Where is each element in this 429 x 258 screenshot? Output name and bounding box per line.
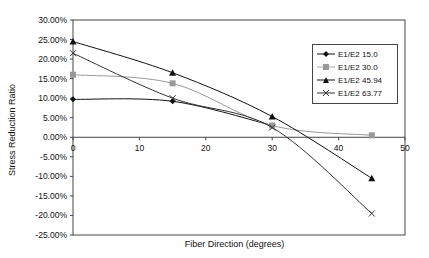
x-tick-label: 40 bbox=[334, 143, 344, 153]
line-chart: 30.00%25.00%20.00%15.00%10.00%5.00%0.00%… bbox=[0, 0, 429, 258]
square-marker-icon bbox=[170, 80, 176, 86]
y-tick-label: -20.00% bbox=[35, 210, 67, 220]
legend-item-15: E1/E2 15.0 bbox=[317, 48, 378, 60]
legend-label: E1/E2 15.0 bbox=[338, 50, 378, 59]
triangle-marker-icon bbox=[70, 38, 77, 45]
square-marker-icon bbox=[317, 63, 335, 71]
legend-label: E1/E2 30.0 bbox=[338, 63, 378, 72]
triangle-marker-icon bbox=[368, 175, 375, 182]
triangle-marker-icon bbox=[317, 76, 335, 84]
diamond-marker-icon bbox=[317, 50, 335, 58]
triangle-marker-icon bbox=[169, 69, 176, 76]
x-tick-label: 0 bbox=[71, 143, 76, 153]
x-tick-label: 20 bbox=[201, 143, 211, 153]
y-tick-label: -10.00% bbox=[35, 171, 67, 181]
x-tick-label: 50 bbox=[400, 143, 410, 153]
y-tick-label: 25.00% bbox=[38, 35, 67, 45]
legend-label: E1/E2 63.77 bbox=[338, 89, 382, 98]
y-tick-label: -15.00% bbox=[35, 191, 67, 201]
legend-item-30: E1/E2 30.0 bbox=[317, 61, 378, 73]
y-tick-label: 20.00% bbox=[38, 54, 67, 64]
x-axis-title: Fiber Direction (degrees) bbox=[0, 239, 429, 249]
y-tick-label: 15.00% bbox=[38, 74, 67, 84]
legend-item-63: E1/E2 63.77 bbox=[317, 87, 382, 99]
x-tick-label: 10 bbox=[135, 143, 145, 153]
y-axis-title-text: Stress Reduction Ratio bbox=[7, 84, 17, 176]
y-tick-label: -5.00% bbox=[40, 152, 67, 162]
square-marker-icon bbox=[70, 72, 76, 78]
x-tick-label: 30 bbox=[267, 143, 277, 153]
diamond-marker-icon bbox=[70, 96, 76, 102]
y-tick-label: 10.00% bbox=[38, 93, 67, 103]
legend: E1/E2 15.0 E1/E2 30.0 E1/E2 45.94 E1/E2 … bbox=[312, 44, 398, 104]
y-tick-label: 0.00% bbox=[43, 132, 68, 142]
legend-item-45: E1/E2 45.94 bbox=[317, 74, 382, 86]
y-tick-label: 5.00% bbox=[43, 113, 68, 123]
square-marker-icon bbox=[369, 132, 375, 138]
y-axis-title: Stress Reduction Ratio bbox=[4, 65, 20, 195]
x-marker-icon bbox=[317, 89, 335, 97]
legend-label: E1/E2 45.94 bbox=[338, 76, 382, 85]
y-tick-label: 30.00% bbox=[38, 15, 67, 25]
triangle-marker-icon bbox=[269, 113, 276, 120]
